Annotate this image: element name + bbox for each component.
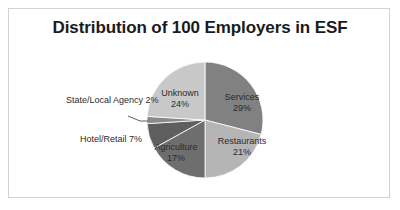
pie-label-unknown-value: 24% (150, 99, 210, 110)
pie-label-state-local-agency-name-line2: Agency (113, 95, 143, 105)
pie-label-services-value: 29% (214, 103, 270, 114)
pie-label-restaurants-name: Restaurants (205, 136, 279, 147)
pie-label-agriculture-value: 17% (143, 153, 209, 164)
pie-label-services-name: Services (214, 92, 270, 103)
pie-label-restaurants: Restaurants 21% (205, 136, 279, 158)
pie-label-agriculture-name: Agriculture (143, 142, 209, 153)
pie-label-agriculture: Agriculture 17% (143, 142, 209, 164)
pie-label-hotel-retail-value: 7% (129, 134, 142, 144)
pie-label-hotel-retail: Hotel/Retail 7% (66, 134, 142, 145)
pie-label-state-local-agency-name-line1: State/Local (66, 95, 111, 105)
pie-label-services: Services 29% (214, 92, 270, 114)
chart-frame: Distribution of 100 Employers in ESF Ser… (0, 0, 400, 210)
pie-label-state-local-agency: State/Local Agency 2% (66, 95, 142, 106)
pie-label-unknown-name: Unknown (150, 88, 210, 99)
pie-label-unknown: Unknown 24% (150, 88, 210, 110)
leader-line-state-local-agency (128, 116, 148, 121)
pie-label-hotel-retail-name: Hotel/Retail (80, 134, 127, 144)
pie-label-state-local-agency-value: 2% (146, 95, 159, 105)
pie-label-restaurants-value: 21% (205, 147, 279, 158)
